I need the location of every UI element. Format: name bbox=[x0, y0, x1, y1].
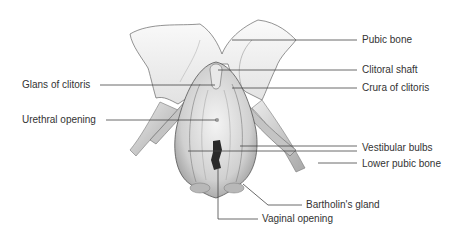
label-pubic-bone: Pubic bone bbox=[362, 34, 412, 46]
label-bartholins-gland: Bartholin's gland bbox=[306, 199, 380, 211]
label-vestibular-bulbs: Vestibular bulbs bbox=[362, 142, 433, 154]
label-urethral-opening: Urethral opening bbox=[22, 114, 96, 126]
label-crura-of-clitoris: Crura of clitoris bbox=[362, 82, 429, 94]
lower-pubic-bone-left bbox=[130, 102, 178, 156]
label-clitoral-shaft: Clitoral shaft bbox=[362, 64, 418, 76]
label-glans-of-clitoris: Glans of clitoris bbox=[22, 79, 90, 91]
label-vaginal-opening: Vaginal opening bbox=[262, 213, 333, 225]
label-lower-pubic-bone: Lower pubic bone bbox=[362, 158, 441, 170]
anatomy-diagram: Pubic bone Clitoral shaft Crura of clito… bbox=[0, 0, 459, 241]
